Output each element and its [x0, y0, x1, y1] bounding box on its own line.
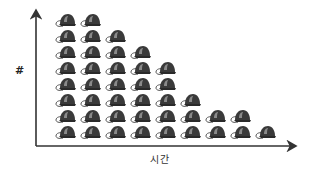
helmet-icon	[81, 46, 101, 58]
helmet-icon	[156, 78, 176, 90]
helmet-icon	[156, 94, 176, 106]
helmet-icon	[56, 14, 76, 26]
helmet-icon	[256, 126, 276, 138]
helmet-icon	[81, 126, 101, 138]
helmet-icon	[56, 46, 76, 58]
helmet-icon	[106, 110, 126, 122]
helmet-icon	[131, 78, 151, 90]
helmet-icon	[81, 30, 101, 42]
pictograph-column	[231, 110, 251, 138]
helmet-icon	[81, 14, 101, 26]
helmet-icon	[206, 110, 226, 122]
helmet-icon	[81, 110, 101, 122]
pictograph-column	[206, 110, 226, 138]
helmet-icon	[131, 110, 151, 122]
helmet-icon	[156, 110, 176, 122]
helmet-icon	[106, 46, 126, 58]
helmet-icon	[131, 62, 151, 74]
pictograph-column	[131, 46, 151, 138]
helmet-icon	[106, 62, 126, 74]
pictograph-column	[181, 94, 201, 138]
helmet-icon	[56, 30, 76, 42]
helmet-icon	[181, 126, 201, 138]
helmet-icon	[131, 94, 151, 106]
helmet-icon	[56, 62, 76, 74]
pictograph-column	[56, 14, 76, 138]
helmet-icon	[56, 110, 76, 122]
chart-canvas	[0, 0, 312, 169]
pictograph-column	[256, 126, 276, 138]
helmet-icon	[181, 94, 201, 106]
helmet-icon	[56, 126, 76, 138]
pictograph-column	[81, 14, 101, 138]
helmet-icon	[106, 78, 126, 90]
helmet-icon	[56, 78, 76, 90]
helmet-icon	[156, 62, 176, 74]
helmet-icon	[131, 46, 151, 58]
x-axis-label: 시간	[150, 151, 170, 166]
pictograph-column	[156, 62, 176, 138]
helmet-icon	[81, 62, 101, 74]
helmet-icon	[131, 126, 151, 138]
pictograph-column	[106, 30, 126, 138]
helmet-icon	[106, 30, 126, 42]
pictograph-icons	[56, 14, 276, 138]
helmet-icon	[206, 126, 226, 138]
helmet-icon	[156, 126, 176, 138]
helmet-icon	[81, 78, 101, 90]
pictograph-chart: # 시간	[0, 0, 312, 169]
helmet-icon	[81, 94, 101, 106]
helmet-icon	[106, 94, 126, 106]
helmet-icon	[231, 110, 251, 122]
helmet-icon	[181, 110, 201, 122]
helmet-icon	[231, 126, 251, 138]
helmet-icon	[56, 94, 76, 106]
helmet-icon	[106, 126, 126, 138]
y-axis-label: #	[15, 64, 24, 77]
